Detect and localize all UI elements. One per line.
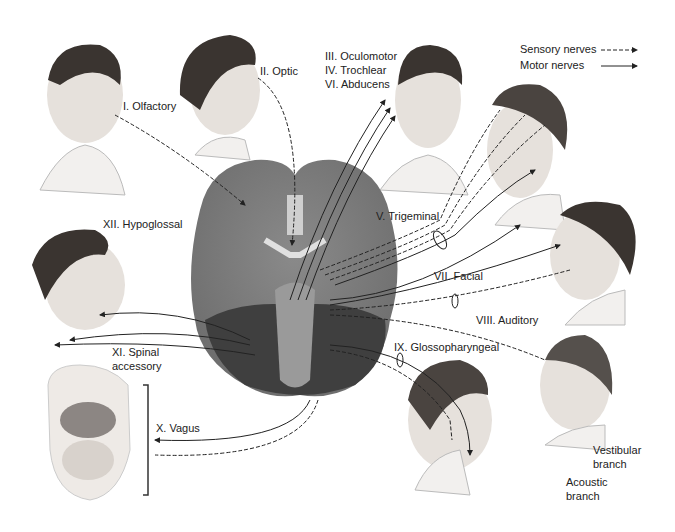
head-trigeminal xyxy=(487,84,567,230)
head-optic xyxy=(180,35,260,160)
head-hypoglossal xyxy=(32,229,125,330)
label-vagus: X. Vagus xyxy=(156,422,200,435)
torso-organs xyxy=(48,365,148,500)
label-acoustic-1: Acoustic xyxy=(566,476,608,489)
label-spinal-accessory-2: accessory xyxy=(112,360,162,373)
head-glossopharyngeal xyxy=(408,360,492,495)
label-spinal-accessory-1: XI. Spinal xyxy=(112,346,159,359)
head-facial xyxy=(550,202,636,325)
label-vestibular-2: branch xyxy=(593,458,627,471)
label-oculomotor: III. Oculomotor xyxy=(325,50,397,63)
label-vestibular-1: Vestibular xyxy=(593,444,641,457)
brain-inferior-view xyxy=(191,160,398,396)
label-hypoglossal: XII. Hypoglossal xyxy=(103,218,182,231)
label-abducens: VI. Abducens xyxy=(325,78,390,91)
head-auditory-back xyxy=(540,335,612,450)
label-glossopharyngeal: IX. Glossopharyngeal xyxy=(394,341,499,354)
label-trochlear: IV. Trochlear xyxy=(325,64,386,77)
head-olfactory xyxy=(40,44,125,195)
legend-sensory-label: Sensory nerves xyxy=(520,43,596,56)
label-olfactory: I. Olfactory xyxy=(123,100,176,113)
legend-motor-label: Motor nerves xyxy=(520,59,584,72)
head-oculomotor xyxy=(380,45,468,195)
label-acoustic-2: branch xyxy=(566,490,600,503)
label-optic: II. Optic xyxy=(260,65,298,78)
label-facial: VII. Facial xyxy=(434,270,483,283)
label-auditory: VIII. Auditory xyxy=(476,314,538,327)
legend-lines xyxy=(601,50,637,66)
label-trigeminal: V. Trigeminal xyxy=(376,210,439,223)
